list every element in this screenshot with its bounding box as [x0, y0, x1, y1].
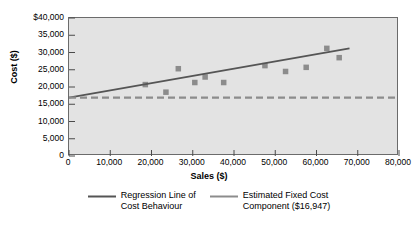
x-axis-tick-label: 0 [66, 158, 71, 167]
data-point-marker [176, 66, 182, 72]
x-axis-tick-labels: 010,00020,00030,00040,00050,00060,00070,… [0, 158, 418, 170]
x-axis-tick-label: 10,000 [96, 158, 122, 167]
legend-label: Estimated Fixed Cost Component ($16,947) [243, 190, 331, 212]
chart-figure: 05,00010,00015,00020,00025,00030,00035,0… [0, 0, 418, 230]
x-axis-tick-label: 80,000 [385, 158, 411, 167]
data-point-marker [324, 46, 330, 52]
x-axis-title: Sales ($) [0, 171, 418, 181]
x-axis-tick-label: 20,000 [138, 158, 164, 167]
x-axis-tick-label: 70,000 [344, 158, 370, 167]
data-point-marker [202, 74, 208, 80]
y-axis-tick-label: 25,000 [38, 64, 64, 73]
y-axis-tick-label: 30,000 [38, 47, 64, 56]
data-point-marker [283, 69, 289, 75]
y-axis-title: Cost ($) [9, 37, 19, 97]
legend-line-swatch [210, 192, 238, 201]
plot-area [68, 17, 398, 155]
y-axis-tick-label: $40,000 [33, 13, 64, 22]
y-axis-tick-label: 10,000 [38, 116, 64, 125]
legend-entry: Estimated Fixed Cost Component ($16,947) [210, 190, 331, 228]
regression-line [69, 48, 350, 97]
y-axis-tick-label: 15,000 [38, 99, 64, 108]
x-axis-tick-label: 30,000 [179, 158, 205, 167]
data-point-marker [163, 89, 169, 95]
y-axis-tick-label: 35,000 [38, 30, 64, 39]
data-point-marker [336, 55, 342, 61]
data-point-marker [221, 80, 227, 86]
y-axis-tick-label: 20,000 [38, 82, 64, 91]
x-axis-tick-label: 40,000 [220, 158, 246, 167]
data-point-marker [303, 65, 309, 71]
y-axis-tick-label: 5,000 [43, 133, 64, 142]
chart-legend: Regression Line of Cost BehaviourEstimat… [0, 190, 418, 228]
x-axis-tick-label: 50,000 [261, 158, 287, 167]
legend-entry: Regression Line of Cost Behaviour [88, 190, 196, 228]
x-axis-tick-label: 60,000 [303, 158, 329, 167]
legend-label: Regression Line of Cost Behaviour [121, 190, 196, 212]
data-point-marker [192, 80, 198, 86]
legend-line-swatch [88, 192, 116, 201]
plot-canvas [69, 18, 399, 156]
